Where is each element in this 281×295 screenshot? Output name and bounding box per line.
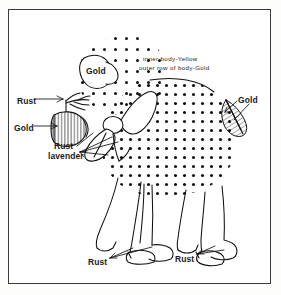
label-gold-tail: Gold (238, 95, 258, 105)
label-gold-back-bow: Gold (86, 66, 106, 76)
label-rust-neck: Rust (54, 141, 73, 151)
label-gold-head: Gold (14, 123, 34, 133)
label-rust-rear-leg: Rust (175, 254, 194, 264)
note-outer-row: outer row of body-Gold (139, 63, 210, 72)
label-lavender-neck: lavender (48, 151, 84, 161)
label-rust-ear: Rust (17, 96, 36, 106)
label-rust-front-leg: Rust (88, 257, 107, 267)
lamb-line-drawing (0, 0, 281, 295)
pattern-page: inner body-Yellow outer row of body-Gold… (0, 0, 281, 295)
note-inner-body: inner body-Yellow (143, 54, 198, 63)
